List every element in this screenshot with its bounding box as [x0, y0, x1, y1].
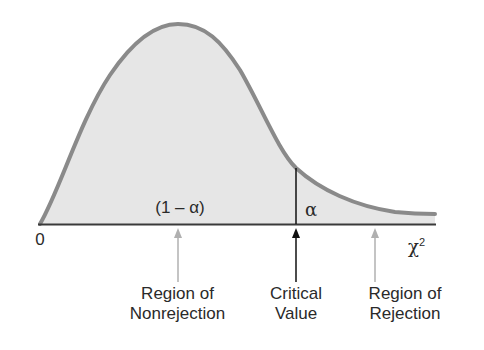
rejection-region-label: Region of Rejection [355, 284, 455, 324]
critical-line1: Critical [256, 284, 336, 304]
alpha-label: α [303, 200, 319, 220]
origin-label: 0 [33, 230, 47, 250]
critical-value-arrowhead-icon [292, 228, 300, 238]
critical-value-label: Critical Value [256, 284, 336, 324]
nonrejection-region-label: Region of Nonrejection [105, 284, 250, 324]
rejection-line1: Region of [355, 284, 455, 304]
rejection-arrowhead-icon [371, 228, 379, 238]
x-axis-chi: χ [408, 236, 419, 257]
distribution-area [40, 24, 435, 224]
critical-line2: Value [256, 304, 336, 324]
x-axis-superscript: 2 [419, 236, 425, 248]
x-axis-label: χ2 [408, 232, 438, 257]
rejection-line2: Rejection [355, 304, 455, 324]
nonrejection-line2: Nonrejection [105, 304, 250, 324]
nonrejection-area-label: (1 – α) [140, 198, 220, 218]
nonrejection-line1: Region of [105, 284, 250, 304]
nonrejection-arrowhead-icon [174, 228, 182, 238]
